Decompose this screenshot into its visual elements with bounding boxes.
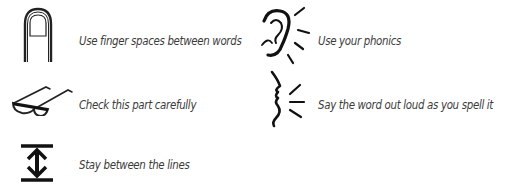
between-lines-icon: [19, 143, 55, 183]
tip-label: Say the word out loud as you spell it: [318, 97, 493, 112]
glasses-icon: [10, 84, 76, 116]
tip-label: Use your phonics: [318, 33, 401, 48]
tip-label: Check this part carefully: [79, 97, 196, 112]
ear-icon: [258, 3, 316, 65]
finger-icon: [18, 6, 58, 64]
speaking-face-icon: [268, 70, 312, 128]
tip-label: Stay between the lines: [79, 157, 189, 172]
tip-label: Use finger spaces between words: [79, 33, 241, 48]
